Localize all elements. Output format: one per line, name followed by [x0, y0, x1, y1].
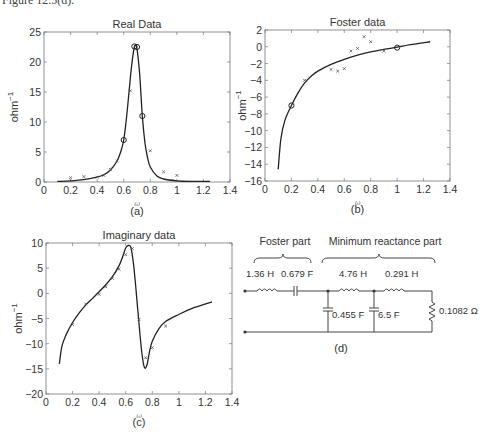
measured-point [303, 79, 306, 82]
capacitor-1-label: 0.679 F [281, 268, 313, 279]
x-tick-label: 0.2 [63, 184, 78, 196]
x-tick-label: 0.8 [145, 396, 160, 408]
x-tick-label: 0.4 [90, 184, 105, 196]
capacitor-2-symbol [323, 291, 333, 332]
y-tick-label: −16 [244, 175, 262, 187]
y-tick-label: −15 [25, 363, 43, 375]
measured-point [149, 149, 152, 152]
y-axis-label: ohm−1 [234, 90, 248, 121]
x-tick-label: 0.8 [363, 183, 378, 195]
measured-point [98, 293, 101, 296]
y-tick-label: −8 [250, 108, 262, 120]
inductor-2-label: 4.76 H [339, 268, 367, 279]
y-tick-label: 5 [37, 262, 43, 274]
x-tick-label: 1.2 [198, 396, 213, 408]
x-tick-label: 0.4 [92, 396, 107, 408]
x-tick-label: 1.2 [416, 183, 431, 195]
chart-title: Imaginary data [103, 229, 177, 241]
measured-point [69, 176, 72, 179]
x-tick-label: 0 [262, 183, 268, 195]
inductor-2-symbol [339, 289, 374, 291]
measured-point [164, 325, 167, 328]
x-tick-label: 1.4 [443, 183, 458, 195]
y-tick-label: −6 [250, 91, 262, 103]
inductor-3-label: 0.291 H [385, 268, 418, 279]
x-tick-label: 1.4 [225, 396, 240, 408]
measured-point [369, 40, 372, 43]
chart-title: Real Data [113, 18, 163, 30]
x-tick-label: 1.2 [196, 184, 211, 196]
x-tick-label: 0.2 [65, 396, 80, 408]
x-tick-label: 0.2 [284, 183, 299, 195]
measured-point [349, 50, 352, 53]
chart-title: Foster data [330, 16, 387, 28]
inductor-1-label: 1.36 H [246, 268, 274, 279]
y-tick-label: 20 [29, 56, 41, 68]
y-tick-label: −20 [25, 388, 43, 400]
x-tick-label: 1 [176, 396, 182, 408]
y-tick-label: 25 [29, 26, 41, 38]
capacitor-3-symbol [369, 291, 379, 332]
y-tick-label: 10 [29, 116, 41, 128]
measured-point [118, 268, 121, 271]
plots-group: 00.20.40.60.811.21.40510152025Real Datao… [6, 16, 457, 428]
measured-point [162, 170, 165, 173]
capacitor-2-label: 0.455 F [332, 309, 364, 320]
min-reactance-heading: Minimum reactance part [329, 235, 442, 247]
y-tick-label: −12 [244, 141, 262, 153]
y-tick-label: 0 [37, 287, 43, 299]
capacitor-3-label: 6.5 F [378, 309, 400, 320]
measured-point [343, 67, 346, 70]
plot-frame [44, 32, 230, 182]
y-tick-label: −4 [250, 74, 262, 86]
inductor-1-symbol [257, 289, 283, 291]
chart-c: 00.20.40.60.811.21.4−20−15−10−50510Imagi… [10, 229, 239, 428]
measured-point [383, 50, 386, 53]
x-tick-label: 1 [394, 183, 400, 195]
measured-point [356, 47, 359, 50]
measured-point [82, 175, 85, 178]
measured-point [124, 253, 127, 256]
min-reactance-brace [322, 254, 435, 263]
foster-part-heading: Foster part [260, 235, 311, 247]
y-tick-label: 10 [31, 237, 43, 249]
x-tick-label: 0 [43, 396, 49, 408]
x-tick-label: 0.8 [143, 184, 158, 196]
measured-point [175, 174, 178, 177]
measured-point [336, 70, 339, 73]
measured-point [330, 68, 333, 71]
figure-canvas: 00.20.40.60.811.21.40510152025Real Datao… [0, 0, 488, 445]
y-tick-label: 0 [35, 176, 41, 188]
y-axis-label: ohm−1 [10, 303, 24, 334]
x-tick-label: 1.4 [223, 184, 238, 196]
circuit-diagram: Foster part Minimum reactance part 1.36 … [243, 235, 477, 354]
fit-curve-line [278, 42, 430, 170]
chart-b: 00.20.40.60.811.21.4−16−14−12−10−8−6−4−2… [234, 16, 457, 215]
x-tick-label: 0.6 [116, 184, 131, 196]
y-axis-label: ohm−1 [6, 91, 20, 122]
inductor-3-symbol [374, 289, 432, 302]
x-tick-label: 0.6 [118, 396, 133, 408]
x-tick-label: 0 [41, 184, 47, 196]
y-tick-label: −10 [25, 338, 43, 350]
caption-a: (a) [130, 205, 143, 217]
measured-point [151, 346, 154, 349]
y-tick-label: −10 [244, 125, 262, 137]
measured-point [144, 356, 147, 359]
y-tick-label: −14 [244, 158, 262, 170]
chart-a: 00.20.40.60.811.21.40510152025Real Datao… [6, 18, 237, 217]
y-tick-label: 5 [35, 146, 41, 158]
fit-curve-line [57, 45, 210, 181]
measured-point [363, 35, 366, 38]
fit-curve-line [59, 245, 212, 368]
foster-brace [254, 254, 311, 263]
y-tick-label: −5 [31, 313, 43, 325]
x-tick-label: 0.6 [337, 183, 352, 195]
x-tick-label: 0.4 [311, 183, 326, 195]
caption-c: (c) [133, 416, 146, 428]
caption-b: (b) [351, 203, 364, 215]
resistor-symbol [429, 302, 435, 332]
x-tick-label: 1 [174, 184, 180, 196]
plot-frame [265, 30, 450, 181]
y-tick-label: −2 [250, 58, 262, 70]
